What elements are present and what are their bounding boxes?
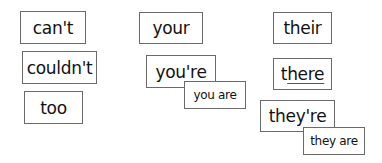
word-label: can't	[33, 18, 73, 38]
underlined-here: here	[287, 64, 324, 84]
word-label: you're	[155, 62, 206, 82]
word-card-cant: can't	[20, 11, 86, 44]
expansion-card-they-are: they are	[303, 127, 365, 155]
expansion-label: you are	[193, 88, 236, 102]
word-card-their: their	[273, 12, 332, 44]
word-label: couldn't	[27, 58, 93, 78]
word-label: their	[283, 18, 321, 38]
word-card-there: there	[273, 58, 332, 90]
word-card-couldnt: couldn't	[22, 51, 97, 84]
word-label: too	[40, 98, 67, 118]
expansion-card-you-are: you are	[184, 81, 246, 109]
word-label: they're	[269, 106, 327, 126]
word-card-your: your	[139, 12, 203, 44]
word-label: there	[281, 64, 324, 84]
word-label: your	[152, 18, 189, 38]
expansion-label: they are	[310, 134, 358, 148]
word-card-too: too	[24, 91, 83, 124]
